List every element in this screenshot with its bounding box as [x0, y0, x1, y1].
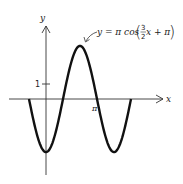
- cosine-graph: y x 1 π y = π cos ( 3 2 x + π ): [0, 0, 183, 184]
- axes: [9, 26, 163, 175]
- y-axis-label: y: [39, 13, 46, 23]
- x-axis-label: x: [166, 94, 171, 104]
- equation-frac-den: 2: [141, 33, 145, 41]
- equation-label: y = π cos ( 3 2 x + π ): [84, 22, 175, 42]
- equation-frac-num: 3: [141, 24, 145, 32]
- equation-rest: x + π: [146, 27, 171, 37]
- equation-pointer-arrow: [86, 32, 97, 41]
- equation-paren-close: ): [169, 22, 175, 41]
- equation-lhs: y = π cos: [96, 27, 140, 37]
- y-tick-label-1: 1: [35, 80, 40, 89]
- x-tick-label-pi: π: [91, 104, 98, 113]
